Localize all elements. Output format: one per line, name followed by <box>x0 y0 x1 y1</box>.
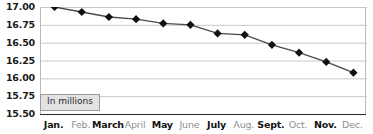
y-axis-tick-label: 15.50 <box>6 109 35 119</box>
data-point-marker <box>213 29 221 37</box>
x-axis-tick-label: Nov. <box>314 120 337 130</box>
data-point-marker <box>186 21 194 29</box>
y-axis-tick-label: 16.00 <box>6 74 35 84</box>
y-axis-tick-label: 16.25 <box>6 56 35 66</box>
data-point-marker <box>105 13 113 21</box>
data-point-marker <box>50 7 58 11</box>
data-point-marker <box>241 31 249 39</box>
x-axis-tick-label: Feb. <box>71 120 90 130</box>
x-axis-tick-label: Sept. <box>257 120 284 130</box>
data-point-marker <box>159 19 167 27</box>
x-axis-tick-label: April <box>125 120 146 130</box>
x-axis-tick-label: Jan. <box>44 120 64 130</box>
in-millions-annotation: In millions <box>40 94 100 111</box>
y-axis-tick-label: 17.00 <box>6 2 35 12</box>
x-axis-tick-label: July <box>207 120 226 130</box>
y-axis-tick-label: 15.75 <box>6 91 35 101</box>
x-axis-tick-label: June <box>179 120 199 130</box>
y-axis-tick-label: 16.50 <box>6 38 35 48</box>
data-point-marker <box>78 8 86 16</box>
y-axis-tick-label: 16.75 <box>6 20 35 30</box>
data-point-marker <box>132 15 140 23</box>
x-axis-tick-label: May <box>152 120 173 130</box>
data-point-marker <box>322 58 330 66</box>
data-point-marker <box>295 49 303 57</box>
x-axis-tick-label: Dec. <box>342 120 363 130</box>
x-axis-tick-label: March <box>92 120 124 130</box>
line-chart: 17.0016.7516.5016.2516.0015.7515.50 In m… <box>0 0 373 134</box>
x-axis: Jan.Feb.MarchAprilMayJuneJulyAug.Sept.Oc… <box>40 114 366 134</box>
data-point-marker <box>349 69 357 77</box>
x-axis-tick-label: Oct. <box>289 120 308 130</box>
data-series-line <box>55 7 354 73</box>
y-axis: 17.0016.7516.5016.2516.0015.7515.50 <box>0 0 38 134</box>
x-axis-tick-label: Aug. <box>233 120 254 130</box>
data-point-marker <box>268 41 276 49</box>
